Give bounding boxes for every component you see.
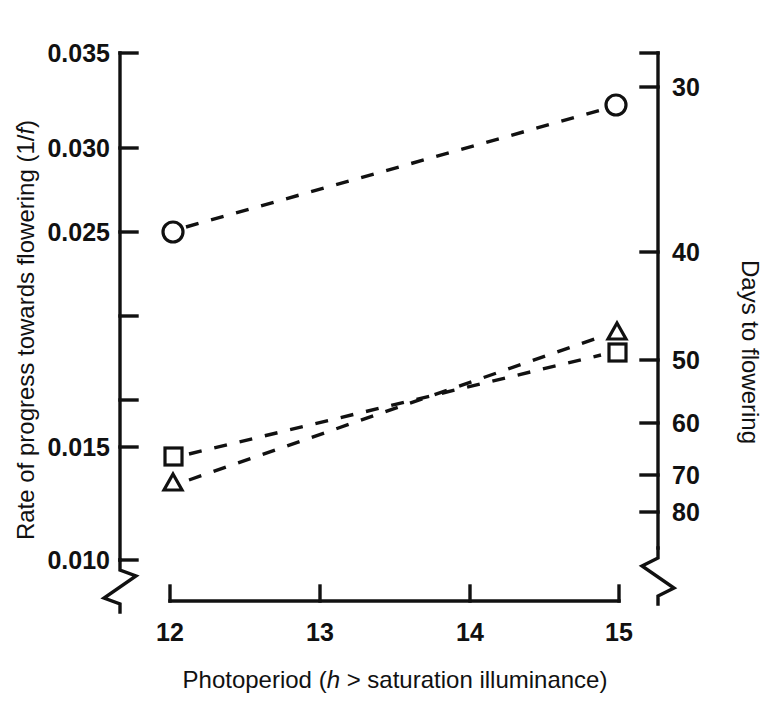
data-point-circle-12 bbox=[163, 222, 183, 242]
xtick-label-14: 14 bbox=[456, 618, 484, 646]
ytick-right-label-70: 70 bbox=[672, 461, 700, 489]
svg-text:Photoperiod (h > saturation il: Photoperiod (h > saturation illuminance) bbox=[183, 666, 608, 693]
ytick-label-0030: 0.030 bbox=[47, 134, 110, 162]
ylabel-post: ) bbox=[12, 120, 39, 128]
ytick-right-label-60: 60 bbox=[672, 409, 700, 437]
chart-figure: 0.035 0.030 0.025 0.015 0.010 Rate of pr… bbox=[0, 0, 779, 720]
xlabel-pre: Photoperiod ( bbox=[183, 666, 327, 693]
xtick-label-12: 12 bbox=[156, 618, 184, 646]
data-point-square-15 bbox=[609, 344, 626, 361]
ytick-label-0035: 0.035 bbox=[47, 39, 110, 67]
ylabel-pre: Rate of progress towards flowering (1/ bbox=[12, 134, 39, 540]
ytick-right-label-50: 50 bbox=[672, 346, 700, 374]
ytick-right-label-80: 80 bbox=[672, 498, 700, 526]
data-point-circle-15 bbox=[606, 95, 626, 115]
ytick-label-0025: 0.025 bbox=[47, 218, 110, 246]
xtick-label-15: 15 bbox=[605, 618, 633, 646]
ytick-label-0010: 0.010 bbox=[47, 546, 110, 574]
xlabel-post: > saturation illuminance) bbox=[340, 666, 607, 693]
svg-text:Rate of progress towards flowe: Rate of progress towards flowering (1/f) bbox=[12, 120, 39, 540]
xlabel-italic: h bbox=[327, 666, 340, 693]
ytick-label-0015: 0.015 bbox=[47, 433, 110, 461]
x-axis-title: Photoperiod (h > saturation illuminance) bbox=[183, 666, 608, 693]
xtick-label-13: 13 bbox=[306, 618, 334, 646]
chart-svg: 0.035 0.030 0.025 0.015 0.010 Rate of pr… bbox=[0, 0, 779, 720]
chart-background bbox=[0, 0, 779, 720]
ytick-right-label-30: 30 bbox=[672, 73, 700, 101]
right-axis-title-text: Days to flowering bbox=[737, 260, 764, 444]
left-y-axis-title: Rate of progress towards flowering (1/f) bbox=[12, 120, 39, 540]
right-y-axis-title: Days to flowering bbox=[737, 260, 764, 444]
data-point-square-12 bbox=[165, 448, 182, 465]
ytick-right-label-40: 40 bbox=[672, 238, 700, 266]
